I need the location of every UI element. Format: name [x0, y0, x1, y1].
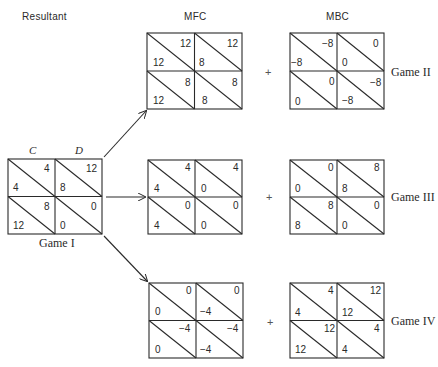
payoff: 0	[329, 77, 335, 87]
payoff: −8	[370, 78, 381, 88]
payoff: 0	[155, 307, 161, 317]
payoff: 4	[328, 286, 334, 296]
payoff: 0	[295, 184, 301, 194]
payoff-cd-row: 8	[60, 183, 66, 193]
payoff: −8	[291, 58, 302, 68]
strategy-label-d: D	[75, 144, 83, 156]
plus-sign: +	[267, 316, 273, 328]
payoff: 0	[201, 184, 207, 194]
payoff: 0	[155, 345, 161, 355]
payoff: 4	[374, 324, 380, 334]
payoff: 12	[370, 286, 381, 296]
payoff: 0	[186, 286, 192, 296]
payoff: 4	[342, 345, 348, 355]
payoff: 12	[180, 39, 191, 49]
payoff: 8	[374, 163, 380, 173]
payoff-dc-col: 8	[44, 202, 50, 212]
mfc-header: MFC	[184, 11, 207, 22]
payoff: 8	[185, 78, 191, 88]
payoff: 0	[185, 201, 191, 211]
payoff: 0	[342, 58, 348, 68]
payoff: −8	[322, 39, 333, 49]
arrow-to-game4	[104, 236, 147, 281]
payoff-cc-row: 4	[13, 183, 19, 193]
payoff: 0	[373, 39, 379, 49]
plus-sign: +	[265, 66, 271, 78]
payoff: −8	[342, 96, 353, 106]
payoff: −4	[227, 324, 238, 334]
payoff: 4	[185, 163, 191, 173]
payoff: 0	[342, 221, 348, 231]
payoff: 12	[295, 345, 306, 355]
payoff: 0	[234, 286, 240, 296]
payoff: 4	[233, 163, 239, 173]
payoff: 8	[202, 96, 208, 106]
payoff: 12	[324, 324, 335, 334]
plus-sign: +	[266, 191, 272, 203]
payoff: 4	[154, 184, 160, 194]
payoff: 0	[295, 97, 301, 107]
payoff: 12	[153, 96, 164, 106]
mbc-header: MBC	[326, 11, 349, 22]
payoff: −4	[179, 324, 190, 334]
payoff: 4	[295, 308, 301, 318]
payoff-dd-row: 0	[60, 221, 66, 231]
payoff-dd-col: 0	[91, 202, 97, 212]
payoff: 8	[295, 221, 301, 231]
payoff: 12	[342, 308, 353, 318]
payoff: 4	[154, 221, 160, 231]
payoff: −4	[200, 307, 211, 317]
payoff: 8	[328, 201, 334, 211]
payoff: 8	[199, 58, 205, 68]
game1-label: Game I	[39, 236, 75, 251]
payoff: −4	[200, 345, 211, 355]
game2-label: Game II	[391, 65, 431, 80]
resultant-header: Resultant	[22, 11, 67, 22]
payoff: 12	[227, 39, 238, 49]
game4-label: Game IV	[391, 314, 435, 329]
strategy-label-c: C	[29, 144, 36, 156]
arrow-to-game2	[104, 111, 146, 157]
payoff: 12	[153, 58, 164, 68]
payoff: 0	[328, 163, 334, 173]
payoff: 0	[201, 221, 207, 231]
payoff: 0	[374, 201, 380, 211]
payoff: 0	[233, 201, 239, 211]
payoff: 8	[342, 184, 348, 194]
payoff-cd-col: 12	[86, 164, 97, 174]
payoff: 8	[232, 78, 238, 88]
payoff-cc-col: 4	[44, 164, 50, 174]
payoff-dc-row: 12	[13, 221, 24, 231]
game3-label: Game III	[391, 190, 435, 205]
